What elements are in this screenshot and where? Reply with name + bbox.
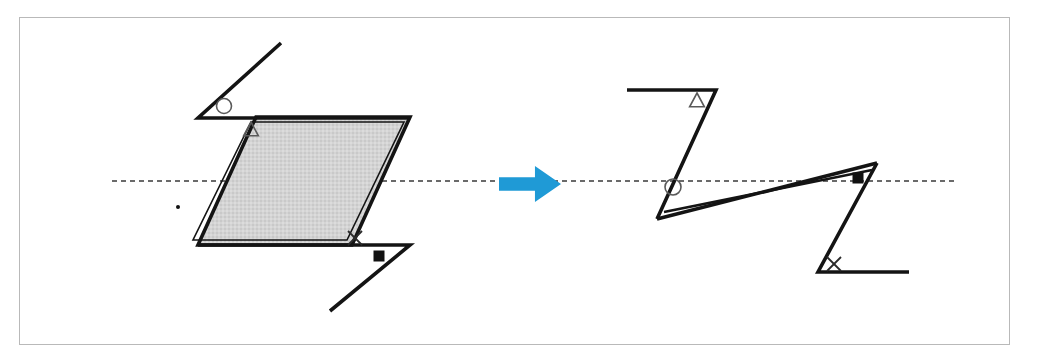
collapsed-sliver-lower-edge xyxy=(664,170,872,212)
square-marker xyxy=(374,251,385,262)
result-shape-group xyxy=(627,90,909,272)
upper-left-arm xyxy=(198,43,410,118)
shaded-parallelogram xyxy=(198,117,410,245)
stray-dot xyxy=(176,205,180,209)
x-marker xyxy=(827,257,841,271)
transformation-arrow xyxy=(499,166,561,202)
arrow-glyph xyxy=(499,166,561,202)
upper-z-arm xyxy=(627,90,716,219)
square-marker xyxy=(853,173,864,184)
triangle-marker xyxy=(690,93,705,107)
source-shape-group xyxy=(176,43,410,311)
circle-marker xyxy=(217,99,232,114)
figure-page xyxy=(0,0,1056,362)
diagram-canvas xyxy=(0,0,1056,362)
